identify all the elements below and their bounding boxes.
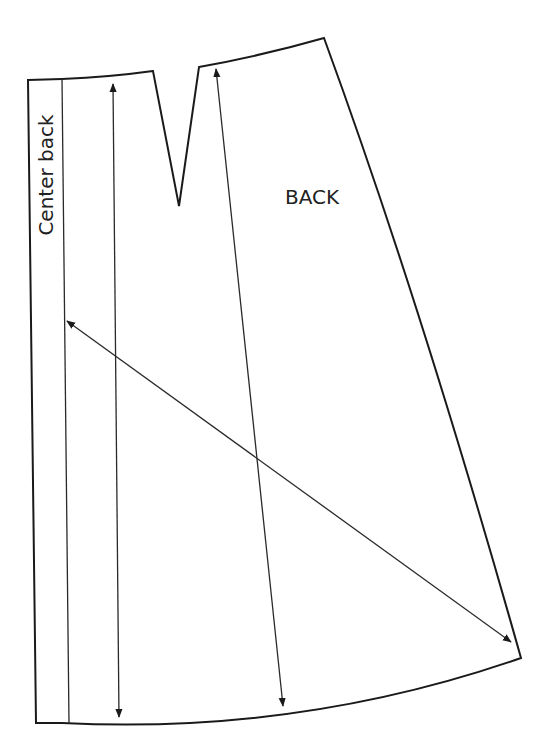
center-back-line: [62, 79, 69, 723]
center-back-label: Center back: [34, 114, 58, 236]
piece-name-label: BACK: [285, 185, 340, 209]
grainline-arrow-2: [216, 69, 283, 706]
bias-arrow: [67, 321, 511, 642]
back-skirt-pattern-diagram: Center back BACK: [0, 0, 549, 746]
grainline-arrow-1: [113, 84, 119, 717]
